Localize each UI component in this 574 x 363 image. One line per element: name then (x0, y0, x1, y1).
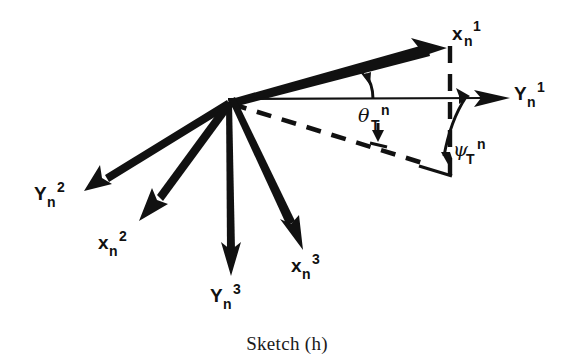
sketch-vector-diagram: x n 1 Y n 1 Y n 2 x n 2 Y n 3 x n 3 θ T … (0, 0, 574, 363)
label-psi-sub: T (466, 151, 475, 167)
label-xn1-sup: 1 (473, 18, 481, 34)
vector-xn2 (139, 101, 232, 221)
label-yn3: Y n 3 (210, 281, 241, 312)
label-psi-sup: n (477, 136, 486, 152)
label-xn1-base: x (452, 23, 463, 44)
label-yn1-sup: 1 (537, 79, 545, 95)
label-xn1: x n 1 (452, 18, 481, 49)
label-theta-sub: T (371, 117, 380, 133)
label-yn2-sub: n (47, 194, 56, 210)
label-xn3-sup: 3 (312, 251, 320, 267)
label-xn3-base: x (291, 255, 302, 276)
label-psi-t-n: ψ T n (453, 136, 486, 167)
label-theta-base: θ (358, 104, 370, 126)
label-yn3-base: Y (210, 285, 223, 306)
label-xn2-sub: n (109, 243, 118, 259)
label-yn1-sub: n (527, 94, 536, 110)
label-xn3: x n 3 (291, 251, 320, 282)
label-yn1: Y n 1 (514, 79, 545, 110)
label-yn2-base: Y (34, 183, 47, 204)
label-theta-sup: n (381, 102, 390, 118)
triangle-closing-edge (419, 166, 452, 176)
label-yn1-base: Y (514, 83, 527, 104)
figure-caption: Sketch (h) (0, 333, 574, 355)
vector-yn3 (221, 102, 241, 276)
label-xn3-sub: n (302, 266, 311, 282)
vector-yn2 (84, 100, 231, 191)
label-theta-t-n: θ T n (358, 102, 390, 133)
label-xn1-sub: n (464, 33, 473, 49)
label-xn2-sup: 2 (119, 228, 127, 244)
label-yn3-sup: 3 (233, 281, 241, 297)
vector-xn3 (229, 97, 303, 250)
label-yn2: Y n 2 (34, 179, 65, 210)
label-yn2-sup: 2 (57, 179, 65, 195)
label-xn2-base: x (98, 232, 109, 253)
label-xn2: x n 2 (98, 228, 127, 259)
label-yn3-sub: n (223, 296, 232, 312)
